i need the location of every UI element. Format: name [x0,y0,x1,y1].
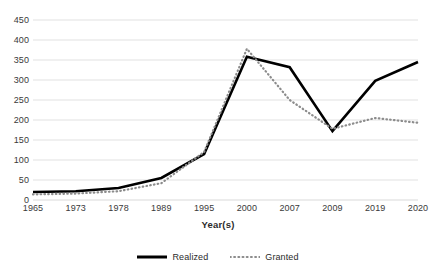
legend-item-realized[interactable]: Realized [137,252,208,262]
y-axis-tick-labels: 450400350300250200150100500 [0,20,29,200]
x-axis-tick-label: 2020 [408,203,428,213]
y-axis-tick-label: 50 [3,176,29,185]
x-axis-tick-label: 2019 [365,203,385,213]
legend-label: Granted [265,252,298,262]
y-axis-tick-label: 150 [3,136,29,145]
data-series-layer [33,20,418,200]
series-line-realized [33,57,418,192]
y-axis-tick-label: 400 [3,36,29,45]
y-axis-tick-label: 350 [3,56,29,65]
chart-container: 450400350300250200150100500 196519731978… [0,0,436,276]
series-line-granted [33,49,418,195]
x-axis-tick-label: 1989 [151,203,171,213]
legend-swatch-realized [137,252,167,262]
x-axis-title: Year(s) [0,219,436,230]
y-axis-tick-label: 250 [3,96,29,105]
x-axis-tick-labels: 1965197319781989199520002007200920192020 [33,203,418,217]
legend-label: Realized [172,252,208,262]
y-axis-tick-label: 100 [3,156,29,165]
plot-area [33,20,418,200]
chart-legend: RealizedGranted [0,252,436,262]
x-axis-tick-label: 2000 [237,203,257,213]
x-axis-tick-label: 1965 [23,203,43,213]
x-axis-tick-label: 2009 [322,203,342,213]
x-axis-tick-label: 1973 [66,203,86,213]
legend-swatch-granted [230,252,260,262]
x-axis-tick-label: 1995 [194,203,214,213]
y-axis-tick-label: 450 [3,16,29,25]
y-axis-tick-label: 300 [3,76,29,85]
y-axis-tick-label: 200 [3,116,29,125]
legend-item-granted[interactable]: Granted [230,252,298,262]
x-axis-tick-label: 2007 [279,203,299,213]
x-axis-tick-label: 1978 [108,203,128,213]
